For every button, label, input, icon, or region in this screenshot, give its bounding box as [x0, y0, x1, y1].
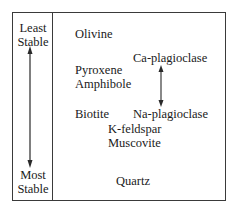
mineral-muscovite: Muscovite: [108, 136, 161, 150]
stability-arrow-icon: [25, 46, 37, 168]
mineral-amphibole: Amphibole: [75, 77, 131, 91]
stable-text-bottom: Stable: [14, 182, 52, 196]
plagioclase-arrow-icon: [156, 65, 166, 107]
mineral-quartz: Quartz: [116, 174, 150, 188]
least-text: Least: [14, 21, 52, 35]
mineral-pyroxene: Pyroxene: [75, 63, 122, 77]
column-divider: [52, 12, 53, 201]
most-stable-label: Most Stable: [14, 168, 52, 196]
mineral-biotite: Biotite: [75, 107, 109, 121]
mineral-na-plagioclase: Na-plagioclase: [133, 107, 208, 121]
mineral-olivine: Olivine: [75, 27, 113, 41]
least-stable-label: Least Stable: [14, 21, 52, 49]
most-text: Most: [14, 168, 52, 182]
mineral-ca-plagioclase: Ca-plagioclase: [133, 51, 207, 65]
mineral-k-feldspar: K-feldspar: [108, 122, 161, 136]
